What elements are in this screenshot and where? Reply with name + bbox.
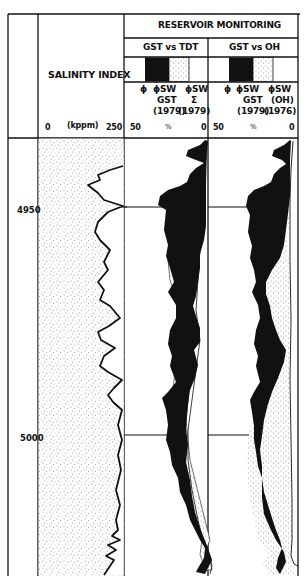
depth-label-5000: 5000	[20, 433, 44, 443]
legend-black-swatch	[145, 58, 169, 82]
track2-scale-right: 0	[289, 123, 294, 132]
track1-scale-left: 50	[130, 123, 141, 132]
track1-sigma-year: (1979)	[178, 106, 210, 116]
track2-phisw-gst-label: ϕSW	[236, 84, 259, 94]
depth-label-4950: 4950	[17, 205, 41, 215]
legend-swatches	[145, 58, 273, 82]
track2-title: GST vs OH	[229, 42, 280, 52]
track1-sigma-src: Σ	[191, 95, 197, 105]
track2-oh-year: (1976)	[264, 106, 296, 116]
track2-scale-left: 50	[213, 123, 224, 132]
track1-phisw-sigma-label: ϕSW	[185, 84, 208, 94]
track2-scale-unit: %	[250, 123, 256, 131]
track1-title: GST vs TDT	[143, 42, 198, 52]
legend-stipple-swatch	[169, 58, 189, 82]
salinity-scale-min: 0	[45, 123, 50, 132]
track2-phi-label: ϕ	[224, 84, 231, 94]
group-title: RESERVOIR MONITORING	[158, 20, 281, 30]
salinity-scale-max: 250	[106, 123, 122, 132]
track1-scale-right: 0	[201, 123, 206, 132]
track-gst-vs-tdt	[158, 140, 212, 574]
track1-phisw-gst-label: ϕSW	[153, 84, 176, 94]
legend-stipple-swatch-2	[253, 58, 273, 82]
track2-oh-src: (OH)	[271, 95, 294, 105]
track-gst-vs-oh	[246, 140, 298, 575]
legend-black-swatch-2	[229, 58, 253, 82]
track1-gst-src: GST	[157, 95, 176, 105]
track1-phi-label: ϕ	[140, 84, 147, 94]
track1-scale-unit: %	[165, 123, 171, 131]
salinity-unit: (kppm)	[67, 121, 98, 130]
track2-phisw-oh-label: ϕSW	[268, 84, 291, 94]
salinity-title: SALINITY INDEX	[48, 69, 130, 80]
track2-gst-src: GST	[243, 95, 262, 105]
